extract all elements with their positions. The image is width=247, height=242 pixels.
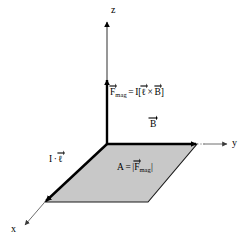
bracket-close: ] — [161, 87, 164, 97]
bfield-vector-symbol: B — [154, 88, 160, 98]
length-symbol: ℓ — [58, 155, 63, 165]
z-axis-label: z — [111, 5, 115, 15]
magnetic-force-diagram: F mag=I[ ℓ × B ] B I· — [0, 0, 247, 242]
length-vector-symbol: ℓ — [58, 155, 63, 165]
vector-diagram-canvas — [0, 0, 247, 242]
force-subscript: mag — [115, 91, 127, 98]
x-axis-extension-line — [25, 203, 44, 225]
bfield-symbol: B — [154, 88, 160, 98]
b-field-label: B — [150, 120, 156, 130]
current-length-label: I· ℓ — [49, 155, 63, 165]
y-axis-label: y — [232, 138, 237, 148]
length-symbol: ℓ — [142, 88, 147, 98]
force-subscript: mag — [139, 166, 151, 173]
force-area-parallelogram — [45, 144, 197, 202]
force-formula-label: F mag=I[ ℓ × B ] — [110, 88, 164, 98]
bfield-symbol: B — [150, 120, 156, 130]
area-label: A=| F mag| — [117, 163, 153, 173]
magnitude-bar-close: | — [151, 162, 153, 172]
length-vector-symbol: ℓ — [142, 88, 147, 98]
x-axis-label: x — [11, 224, 16, 234]
bfield-vector-symbol-standalone: B — [150, 120, 156, 130]
area-symbol: A — [117, 162, 124, 172]
equals-sign: = — [124, 162, 132, 172]
cross-product-operator: × — [146, 87, 154, 97]
equals-sign: = — [127, 87, 135, 97]
